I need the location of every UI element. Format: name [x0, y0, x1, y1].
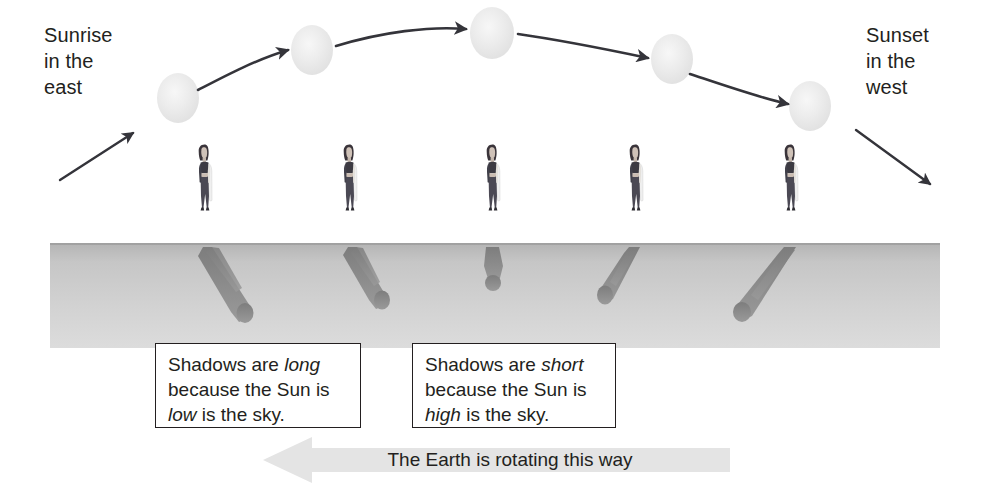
sun-position-1	[157, 73, 199, 123]
people-group	[199, 145, 798, 211]
shadow-figure-3	[484, 247, 503, 291]
diagram-canvas: Sunrise in the east Sunset in the west S…	[0, 0, 982, 487]
rotation-caption: The Earth is rotating this way	[300, 446, 720, 474]
person-figure-1	[199, 145, 212, 211]
sunset-arrow	[856, 130, 930, 184]
callout-long-shadows: Shadows are long because the Sun is low …	[155, 343, 361, 428]
callout-long-line-3-suffix: is the sky.	[197, 404, 285, 425]
callout-short-emphasis-high: high	[425, 404, 461, 425]
sun-arc-arrow-2	[336, 28, 466, 46]
person-figure-5	[785, 145, 798, 211]
callout-short-shadows: Shadows are short because the Sun is hig…	[412, 343, 616, 428]
callout-short-line-1: Shadows are short	[425, 352, 605, 377]
sun-arc-arrow-3	[518, 34, 648, 58]
callout-long-line-2: because the Sun is	[168, 377, 350, 402]
sun-position-3	[470, 7, 514, 59]
person-figure-4	[630, 145, 643, 211]
callout-short-line-3-suffix: is the sky.	[461, 404, 549, 425]
sunrise-arrow	[60, 133, 133, 180]
sunset-label: Sunset in the west	[866, 22, 929, 100]
sun-position-5	[789, 81, 831, 131]
callout-short-line-1-prefix: Shadows are	[425, 354, 541, 375]
sun-arc-arrow-4	[690, 74, 788, 104]
callout-long-line-1: Shadows are long	[168, 352, 350, 377]
callout-long-emphasis-low: low	[168, 404, 197, 425]
person-figure-3	[487, 145, 500, 211]
callout-long-line-3: low is the sky.	[168, 402, 350, 427]
callout-long-emphasis-long: long	[284, 354, 320, 375]
callout-short-emphasis-short: short	[541, 354, 583, 375]
callout-short-line-3: high is the sky.	[425, 402, 605, 427]
person-figure-2	[344, 145, 357, 211]
sun-arc-arrow-1	[198, 50, 288, 90]
sun-position-4	[651, 34, 693, 84]
callout-long-line-1-prefix: Shadows are	[168, 354, 284, 375]
sun-group	[157, 7, 831, 131]
callout-short-line-2: because the Sun is	[425, 377, 605, 402]
sun-position-2	[291, 25, 333, 75]
sunrise-label: Sunrise in the east	[44, 22, 113, 100]
